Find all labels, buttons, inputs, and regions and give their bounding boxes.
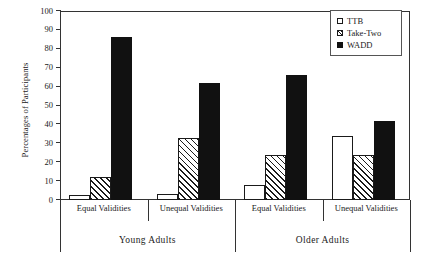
filled-square-icon (337, 42, 343, 48)
y-tick: 20 (56, 161, 61, 162)
y-tick: 40 (56, 123, 61, 124)
x-axis-tier1-label: Unequal Validities (148, 203, 236, 213)
y-tick: 70 (56, 67, 61, 68)
chart-legend: TTB Take-Two WADD (330, 10, 402, 56)
y-tick-label: 50 (45, 100, 54, 110)
y-tick-label: 30 (45, 138, 54, 148)
y-tick: 50 (56, 105, 61, 106)
y-tick: 30 (56, 142, 61, 143)
bar-ttb (69, 195, 90, 200)
y-tick-label: 0 (49, 195, 53, 205)
bar-ttb (244, 185, 265, 200)
y-tick: 10 (56, 180, 61, 181)
bar-wadd (111, 37, 132, 200)
y-tick: 60 (56, 86, 61, 87)
x-axis-tier1-label: Equal Validities (235, 203, 323, 213)
y-tick-label: 100 (40, 6, 53, 16)
y-axis-title: Percentages of Participants (20, 30, 30, 190)
legend-label: WADD (347, 40, 373, 50)
open-square-icon (337, 18, 343, 24)
y-tick-label: 40 (45, 119, 54, 129)
x-axis-tier1-label: Unequal Validities (323, 203, 411, 213)
y-tick-label: 60 (45, 81, 54, 91)
y-tick-label: 10 (45, 176, 54, 186)
y-tick-label: 20 (45, 157, 54, 167)
bar-take-two (178, 138, 199, 200)
legend-label: TTB (347, 16, 363, 26)
bar-wadd (374, 121, 395, 200)
legend-item-wadd[interactable]: WADD (337, 39, 396, 51)
y-tick: 90 (56, 29, 61, 30)
x-axis-tier2-label: Young Adults (60, 235, 235, 245)
y-tick-label: 80 (45, 43, 54, 53)
legend-item-take-two[interactable]: Take-Two (337, 27, 396, 39)
bar-take-two (90, 177, 111, 200)
x-axis-tier2-label: Older Adults (235, 235, 410, 245)
y-tick: 100 (56, 10, 61, 11)
bar-ttb (157, 194, 178, 200)
legend-label: Take-Two (347, 28, 381, 38)
bar-chart-figure: Percentages of Participants 010203040506… (0, 0, 424, 255)
bar-take-two (265, 155, 286, 200)
y-tick: 80 (56, 48, 61, 49)
hatched-square-icon (337, 30, 343, 36)
bar-ttb (332, 136, 353, 200)
plot-frame-right (409, 11, 410, 200)
x-axis-separator (410, 200, 411, 252)
y-tick-label: 90 (45, 24, 54, 34)
legend-item-ttb[interactable]: TTB (337, 15, 396, 27)
bar-wadd (286, 75, 307, 200)
bar-take-two (353, 155, 374, 200)
bar-wadd (199, 83, 220, 200)
x-axis-tier1-label: Equal Validities (60, 203, 148, 213)
y-tick-label: 70 (45, 62, 54, 72)
